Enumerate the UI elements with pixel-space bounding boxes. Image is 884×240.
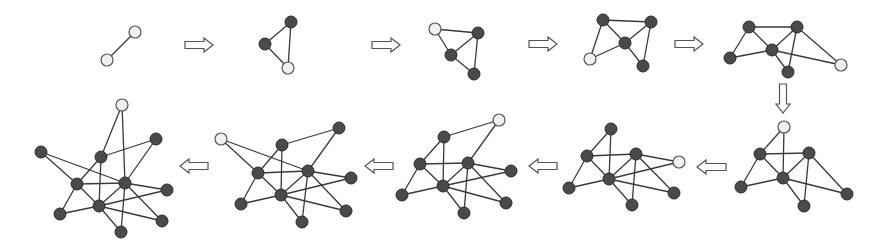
graph-node: [414, 158, 426, 170]
nodes-layer: [35, 14, 853, 238]
graph-node: [766, 44, 778, 56]
graph-node: [468, 68, 480, 80]
graph-edge: [99, 206, 162, 221]
graph-edge: [420, 163, 468, 164]
graph-edge: [468, 120, 499, 163]
graph-node: [71, 178, 83, 190]
graph-node: [345, 172, 357, 184]
graph-edge: [587, 154, 636, 156]
graph-node: [472, 27, 484, 39]
edges-layer: [41, 20, 847, 232]
graph-node: [668, 187, 680, 199]
graph-edge: [41, 152, 77, 184]
graph-node: [396, 189, 408, 201]
graph-edge: [99, 190, 167, 206]
graph-edge: [121, 183, 125, 232]
graph-edge: [308, 171, 346, 211]
graph-node: [458, 207, 470, 219]
graph-node: [581, 150, 593, 162]
graph-edge: [308, 128, 339, 171]
new-node: [116, 99, 128, 111]
arrow-left-icon: [529, 159, 557, 173]
graph-node: [54, 208, 66, 220]
graph-edge: [77, 183, 125, 184]
graph-node: [161, 184, 173, 196]
graph-node: [259, 38, 271, 50]
graph-node: [252, 167, 264, 179]
graph-node: [115, 226, 127, 238]
graph-edge: [609, 162, 679, 179]
graph-node: [438, 131, 450, 143]
arrow-right-icon: [372, 38, 400, 52]
graph-edge: [643, 22, 651, 66]
new-node: [282, 62, 294, 74]
new-node: [101, 54, 113, 66]
graph-edge: [125, 139, 156, 183]
graph-node: [500, 197, 512, 209]
graph-edge: [443, 137, 444, 186]
graph-node: [445, 49, 457, 61]
graph-edge: [101, 105, 122, 157]
arrow-right-icon: [185, 38, 213, 52]
graph-edge: [632, 154, 636, 205]
graph-panel-2-nodes: [259, 16, 297, 74]
graph-edge: [772, 50, 841, 65]
new-node: [129, 26, 141, 38]
graph-node: [285, 16, 297, 28]
graph-node: [619, 37, 631, 49]
graph-edge: [281, 195, 346, 211]
graph-node: [791, 21, 803, 33]
arrow-right-icon: [529, 37, 557, 51]
graph-node: [296, 216, 308, 228]
graph-edge: [302, 171, 308, 222]
graph-edge: [797, 27, 841, 65]
graph-node: [119, 177, 131, 189]
graph-node: [645, 16, 657, 28]
graph-panel-3: [435, 29, 478, 74]
graph-node: [798, 200, 810, 212]
new-node: [215, 133, 227, 145]
graph-node: [777, 172, 789, 184]
graph-node: [841, 188, 853, 200]
graph-edge: [809, 153, 847, 194]
graph-edge: [122, 105, 125, 183]
graph-node: [93, 200, 105, 212]
graph-node: [505, 165, 517, 177]
graph-edge: [282, 128, 339, 145]
graph-edge: [101, 139, 156, 157]
graph-node: [563, 182, 575, 194]
graph-node: [637, 60, 649, 72]
graph-edge: [99, 157, 101, 206]
graph-node: [156, 215, 168, 227]
graph-edge: [288, 22, 291, 68]
arrow-left-icon: [365, 159, 393, 173]
graph-panel-7: [569, 129, 679, 205]
graph-edge: [281, 145, 282, 195]
arrow-left-icon: [697, 160, 726, 174]
graph-edge: [221, 139, 258, 173]
arrow-left-icon: [180, 159, 208, 173]
graph-node: [302, 165, 314, 177]
graph-node: [782, 66, 794, 78]
new-node: [584, 53, 596, 65]
graph-node: [803, 147, 815, 159]
graph-node: [333, 122, 345, 134]
graph-node: [743, 21, 755, 33]
graph-node: [462, 157, 474, 169]
new-node: [493, 114, 505, 126]
graph-panel-5-nodes: [724, 21, 847, 78]
graph-edge: [258, 171, 308, 173]
graph-edge: [603, 20, 651, 22]
graph-node: [235, 198, 247, 210]
graph-edge: [444, 120, 499, 137]
graph-node: [340, 205, 352, 217]
graph-node: [437, 180, 449, 192]
graph-panel-6: [741, 127, 847, 206]
graph-node: [275, 189, 287, 201]
graph-growth-diagram: Graph growth sequence: nodes added step …: [0, 0, 884, 240]
graph-edge: [804, 153, 809, 206]
new-node: [429, 23, 441, 35]
graph-node: [630, 148, 642, 160]
arrow-right-icon: [675, 37, 703, 51]
new-node: [835, 59, 847, 71]
